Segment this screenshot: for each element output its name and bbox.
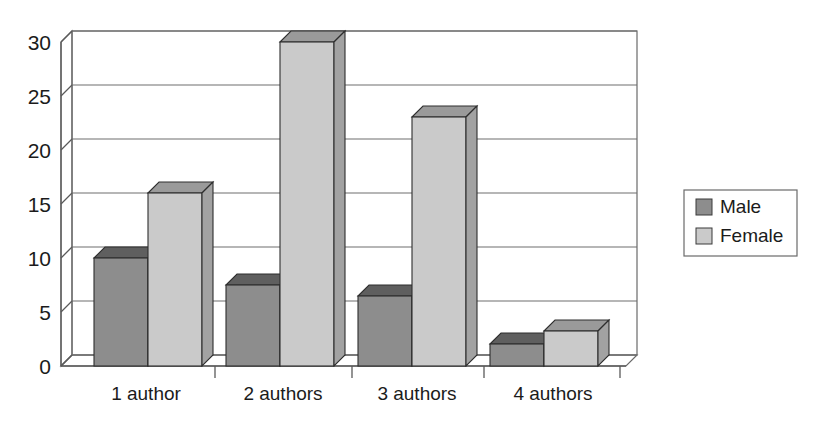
legend-swatch-male (696, 199, 712, 215)
bar-group-1-author (94, 182, 213, 366)
y-tick-label-15: 15 (28, 193, 51, 216)
gridline-connector-30 (61, 31, 72, 42)
legend-swatch-female (696, 228, 712, 244)
bar-female-1-author[interactable] (148, 182, 213, 366)
gridline-connector-20 (61, 139, 72, 150)
bar-chart-figure: 30 25 20 15 10 5 0 (0, 0, 821, 423)
x-category-label-4-authors: 4 authors (513, 383, 592, 404)
x-category-label-1-author: 1 author (111, 383, 181, 404)
legend-entry-male[interactable]: Male (696, 196, 761, 217)
bar-female-3-authors[interactable] (412, 106, 477, 366)
bar-female-2-authors[interactable] (280, 31, 345, 366)
x-category-label-2-authors: 2 authors (243, 383, 322, 404)
x-category-label-3-authors: 3 authors (377, 383, 456, 404)
bar-group-4-authors (490, 320, 609, 366)
y-tick-label-5: 5 (39, 301, 51, 324)
y-tick-label-20: 20 (28, 139, 51, 162)
bar-group-2-authors (226, 31, 345, 366)
gridline-connector-25 (61, 85, 72, 96)
gridline-connector-15 (61, 193, 72, 204)
gridline-connector-5 (61, 301, 72, 312)
legend-label-female: Female (720, 225, 783, 246)
chart-canvas: 30 25 20 15 10 5 0 (0, 0, 821, 423)
legend-label-male: Male (720, 196, 761, 217)
y-tick-label-25: 25 (28, 85, 51, 108)
gridline-connector-0 (61, 355, 72, 366)
legend-entry-female[interactable]: Female (696, 225, 783, 246)
y-axis-tick-labels: 30 25 20 15 10 5 0 (28, 31, 51, 378)
y-tick-label-30: 30 (28, 31, 51, 54)
bar-female-4-authors[interactable] (544, 320, 609, 366)
y-tick-label-0: 0 (39, 355, 51, 378)
x-axis-ticks (215, 366, 620, 378)
y-tick-label-10: 10 (28, 247, 51, 270)
x-axis-category-labels: 1 author 2 authors 3 authors 4 authors (111, 383, 592, 404)
bar-group-3-authors (358, 106, 477, 366)
gridline-connector-10 (61, 247, 72, 258)
chart-legend: Male Female (684, 190, 797, 256)
